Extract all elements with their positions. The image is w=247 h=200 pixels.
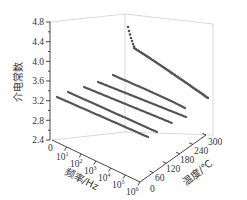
- z-tick: 2.8: [32, 116, 44, 126]
- frequency-axis: [52, 140, 140, 186]
- y-tick: 60: [155, 173, 165, 183]
- y-tick: 240: [194, 146, 209, 156]
- x-tick: 106: [126, 186, 139, 197]
- data-series: [57, 48, 208, 137]
- z-tick: 2.4: [32, 135, 44, 145]
- y-tick: 120: [166, 164, 181, 174]
- z-tick: 3.2: [32, 96, 44, 106]
- 3d-chart: 4.8 4.4 4.0 3.6 3.2 2.8 2.4 介电常数 0 101 1…: [0, 0, 247, 200]
- x-tick: 101: [56, 151, 69, 162]
- y-tick: 180: [180, 155, 195, 165]
- z-tick: 4.8: [32, 17, 44, 27]
- series-curve: [57, 97, 148, 137]
- y-tick: 300: [208, 137, 223, 147]
- x-tick: 105: [112, 179, 125, 190]
- z-tick: 3.6: [32, 76, 44, 86]
- y-tick: 0: [150, 184, 155, 194]
- x-origin-tick: 0: [48, 143, 53, 153]
- z-tick: 4.4: [32, 37, 44, 47]
- z-tick-labels: 4.8 4.4 4.0 3.6 3.2 2.8 2.4: [32, 17, 44, 145]
- z-axis-title: 介电常数: [12, 62, 24, 102]
- z-axis: [46, 22, 50, 140]
- z-tick: 4.0: [32, 57, 44, 67]
